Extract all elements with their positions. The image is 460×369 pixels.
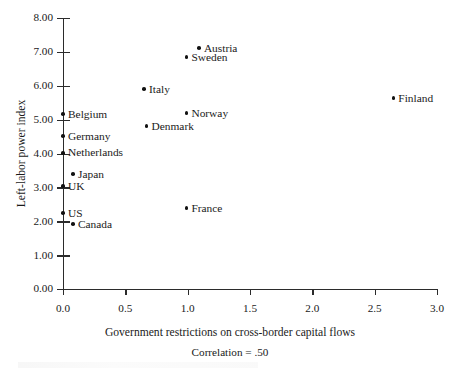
y-tick: [57, 52, 63, 53]
x-tick: [312, 289, 313, 295]
data-point-label: Germany: [68, 131, 110, 142]
data-point: [142, 87, 146, 91]
data-point: [71, 222, 75, 226]
x-tick: [188, 289, 189, 295]
data-point: [185, 206, 189, 210]
y-tick-inner: [64, 221, 70, 222]
y-tick-inner: [64, 18, 70, 19]
correlation-annotation: Correlation = .50: [0, 346, 460, 359]
x-tick: [250, 289, 251, 295]
data-point-label: Netherlands: [68, 147, 123, 158]
y-tick: [57, 18, 63, 19]
x-tick-label: 2.0: [292, 303, 332, 314]
x-tick-label: 1.0: [168, 303, 208, 314]
x-tick-label: 3.0: [417, 303, 457, 314]
data-point-label: Denmark: [152, 121, 194, 132]
data-point: [185, 55, 189, 59]
data-point: [392, 96, 396, 100]
data-point: [197, 46, 201, 50]
x-tick: [63, 289, 64, 295]
y-tick: [57, 86, 63, 87]
data-point-label: Japan: [78, 169, 104, 180]
data-point-label: France: [191, 203, 222, 214]
scatter-plot-figure: AustriaSwedenItalyFinlandNorwayBelgiumDe…: [0, 0, 460, 369]
y-tick: [57, 221, 63, 222]
data-point-label: Canada: [78, 219, 112, 230]
data-point: [145, 124, 149, 128]
page-edge-artifact: [18, 362, 258, 368]
data-point-label: Norway: [191, 108, 228, 119]
x-tick-label: 0.5: [105, 303, 145, 314]
data-point-label: Finland: [398, 93, 433, 104]
y-tick: [57, 120, 63, 121]
data-point-label: Belgium: [68, 109, 107, 120]
data-point-label: Sweden: [191, 52, 227, 63]
y-tick-inner: [64, 52, 70, 53]
y-tick-inner: [64, 86, 70, 87]
data-point: [61, 151, 65, 155]
x-tick: [437, 289, 438, 295]
x-axis-title: Government restrictions on cross-border …: [0, 326, 460, 339]
data-point: [61, 211, 65, 215]
x-tick-label: 2.5: [355, 303, 395, 314]
x-tick-label: 0.0: [43, 303, 83, 314]
data-point-label: Italy: [149, 84, 170, 95]
data-point: [185, 111, 189, 115]
y-tick-inner: [64, 255, 70, 256]
y-tick-inner: [64, 289, 70, 290]
y-tick: [57, 255, 63, 256]
plot-area: AustriaSwedenItalyFinlandNorwayBelgiumDe…: [63, 18, 437, 289]
x-tick: [125, 289, 126, 295]
x-tick-label: 1.5: [230, 303, 270, 314]
y-axis-title: Left-labor power index: [14, 18, 30, 289]
data-point: [61, 134, 65, 138]
data-point: [71, 172, 75, 176]
data-point: [61, 112, 65, 116]
data-point-label: UK: [68, 181, 84, 192]
data-point: [61, 184, 65, 188]
x-tick: [375, 289, 376, 295]
